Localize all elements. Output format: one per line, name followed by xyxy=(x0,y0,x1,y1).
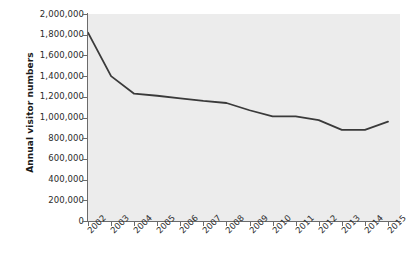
x-tick-label: 2011 xyxy=(294,213,316,235)
line-chart: Annual visitor numbers 0200,000400,00060… xyxy=(0,0,414,267)
x-tick-label: 2009 xyxy=(248,213,270,235)
x-tick-label: 2007 xyxy=(201,213,223,235)
x-tick-label: 2004 xyxy=(132,213,154,235)
x-tick-label: 2002 xyxy=(86,213,108,235)
x-tick-label: 2010 xyxy=(271,213,293,235)
x-tick-label: 2003 xyxy=(109,213,131,235)
x-tick-label: 2005 xyxy=(155,213,177,235)
x-tick-label: 2008 xyxy=(224,213,246,235)
x-tick-label: 2015 xyxy=(386,213,408,235)
x-tick-label: 2014 xyxy=(363,213,385,235)
x-tick-label: 2006 xyxy=(178,213,200,235)
x-tick-label: 2012 xyxy=(317,213,339,235)
x-axis-ticks: 2002200320042005200620072008200920102011… xyxy=(0,0,414,267)
x-tick-label: 2013 xyxy=(340,213,362,235)
